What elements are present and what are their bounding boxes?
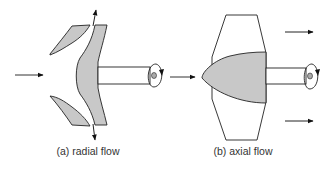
- outlet-arrow-down: [93, 124, 95, 140]
- shaft: [98, 67, 150, 84]
- outlet-arrow-up: [93, 10, 96, 26]
- turbomachine-diagram: [0, 0, 333, 172]
- caption-radial-flow: (a) radial flow: [56, 145, 119, 157]
- shroud-upper: [50, 25, 90, 55]
- shaft-end: [152, 73, 157, 79]
- radial-flow-panel: [15, 10, 164, 140]
- axial-flow-panel: [170, 15, 320, 140]
- shaft: [266, 68, 306, 84]
- shaft-end: [308, 73, 313, 79]
- caption-axial-flow: (b) axial flow: [214, 145, 273, 157]
